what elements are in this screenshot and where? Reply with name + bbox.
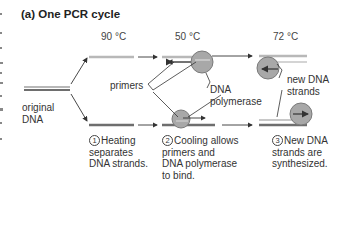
step-number-2: 2 — [162, 135, 173, 146]
original-dna-strands — [24, 87, 70, 90]
step-number-1: 1 — [89, 135, 100, 146]
arrow-up-icon — [71, 58, 87, 84]
step-2-cooling: 2Cooling allows primers and DNA polymera… — [162, 135, 238, 181]
dna-polymerase-label: DNA polymerase — [210, 84, 262, 107]
dna-polymerase-top-icon — [191, 51, 213, 73]
dna-polymerase-72-top-icon — [257, 57, 279, 79]
step-3-synthesis: 3New DNA strands are synthesized. — [272, 135, 328, 170]
primers-label: primers — [110, 80, 143, 92]
step-1-heating: 1Heating separates DNA strands. — [89, 135, 148, 170]
dna-polymerase-bottom-icon — [172, 110, 190, 128]
arrow-down-icon — [71, 94, 87, 121]
new-dna-strands-label: new DNA strands — [287, 74, 329, 97]
original-dna-label: original DNA — [22, 102, 54, 125]
step-number-3: 3 — [272, 135, 283, 146]
